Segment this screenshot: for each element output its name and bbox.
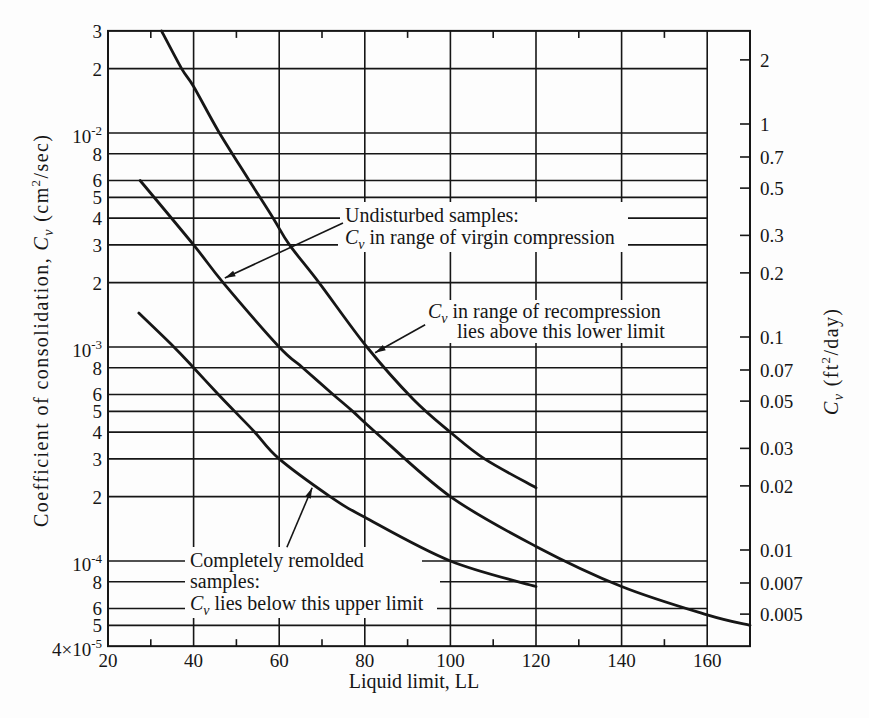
y-tick-label: 8: [93, 144, 103, 165]
tick-base: 5: [93, 187, 103, 208]
tick-exponent: -2: [91, 123, 102, 138]
y-tick-label: 3: [93, 449, 103, 470]
text-run: lies below this upper limit: [210, 592, 424, 615]
y-tick-label: 8: [93, 358, 103, 379]
text-run: (ft: [820, 364, 843, 392]
tick-base: 10: [72, 340, 91, 361]
curve-remolded-upper-limit: [139, 313, 536, 586]
y-tick-label: 2: [93, 487, 103, 508]
text-run: samples:: [190, 570, 260, 593]
right-tick-label: 0.7: [760, 147, 784, 168]
text-run: Completely remolded: [190, 549, 364, 572]
chart-canvas: 210.70.50.30.20.10.070.050.030.020.010.0…: [0, 0, 869, 718]
tick-base: 3: [93, 21, 103, 42]
x-tick-label: 120: [522, 650, 551, 671]
annotation-recompression: Cv in range of recompressionlies above t…: [428, 300, 665, 342]
tick-base: 3: [93, 449, 103, 470]
arrowhead-icon: [225, 271, 236, 278]
y-tick-label: 2: [93, 273, 103, 294]
y-axis-title-left: Coefficient of consolidation, Cv (cm2/se…: [28, 135, 56, 527]
annotation-line: Cv in range of virgin compression: [345, 226, 615, 252]
annotation-remolded-samples: Completely remoldedsamples:Cv lies below…: [190, 549, 424, 618]
annotation-line: lies above this lower limit: [457, 320, 665, 342]
tick-base: 8: [93, 572, 103, 593]
right-tick-label: 0.005: [760, 604, 803, 625]
x-tick-label: 100: [436, 650, 465, 671]
tick-exponent: -4: [91, 551, 102, 566]
text-run: Undisturbed samples:: [345, 204, 519, 227]
y-tick-label: 5: [93, 615, 103, 636]
tick-exponent: -5: [91, 636, 102, 651]
text-run: (cm: [30, 187, 53, 228]
tick-base: 4: [93, 422, 103, 443]
superscript: 2: [818, 357, 833, 364]
tick-base: 2: [93, 273, 103, 294]
right-tick-label: 0.02: [760, 476, 793, 497]
tick-base: 4: [93, 208, 103, 229]
annotation-arrow-line: [225, 223, 343, 278]
y-tick-label: 4: [93, 422, 103, 443]
x-axis-title: Liquid limit, LL: [349, 670, 480, 693]
tick-exponent: -3: [91, 337, 102, 352]
right-tick-label: 0.007: [760, 573, 803, 594]
text-run: /day): [820, 309, 843, 356]
text-run: C: [820, 401, 842, 415]
superscript: 2: [28, 180, 43, 187]
text-run: in range of virgin compression: [365, 226, 615, 249]
y-tick-label: 5: [93, 187, 103, 208]
consolidation-coefficient-chart: 210.70.50.30.20.10.070.050.030.020.010.0…: [0, 0, 869, 718]
annotation-line: Cv lies below this upper limit: [190, 592, 424, 618]
text-run: C: [30, 237, 52, 251]
tick-base: 2: [93, 59, 103, 80]
right-tick-label: 0.07: [760, 360, 793, 381]
curve-recompression-lower-limit: [162, 31, 537, 488]
tick-base: 2: [93, 487, 103, 508]
annotation-arrows: [225, 223, 425, 547]
subscript: v: [41, 229, 56, 236]
right-tick-label: 0.2: [760, 263, 784, 284]
text-run: lies above this lower limit: [457, 320, 665, 342]
y-tick-label: 4: [93, 208, 103, 229]
x-tick-label: 140: [607, 650, 636, 671]
y-tick-label: 4×10-5: [52, 636, 102, 660]
text-run: C: [190, 592, 204, 614]
x-tick-label: 60: [270, 650, 289, 671]
tick-base: 4×10: [52, 639, 91, 660]
right-tick-label: 2: [760, 50, 770, 71]
text-run: C: [345, 226, 359, 248]
text-run: C: [428, 300, 442, 322]
arrowhead-icon: [375, 345, 386, 353]
x-tick-label: 160: [693, 650, 722, 671]
annotation-undisturbed-samples: Undisturbed samples:Cv in range of virgi…: [345, 204, 615, 252]
tick-base: 5: [93, 401, 103, 422]
y-tick-label: 3: [93, 235, 103, 256]
tick-base: 8: [93, 144, 103, 165]
y-axis-title-right: Cv (ft2/day): [818, 309, 846, 415]
tick-base: 10: [72, 126, 91, 147]
y-tick-label: 3: [93, 21, 103, 42]
x-tick-label: 40: [184, 650, 203, 671]
text-run: Coefficient of consolidation,: [30, 252, 52, 527]
text-run: /sec): [30, 135, 53, 178]
y-tick-label: 8: [93, 572, 103, 593]
subscript: v: [831, 393, 846, 400]
tick-base: 3: [93, 235, 103, 256]
right-tick-label: 1: [760, 114, 770, 135]
tick-base: 5: [93, 615, 103, 636]
y-tick-label: 2: [93, 59, 103, 80]
tick-base: 10: [72, 554, 91, 575]
annotation-line: Completely remolded: [190, 549, 364, 572]
right-tick-label: 0.01: [760, 540, 793, 561]
right-tick-label: 0.03: [760, 438, 793, 459]
x-tick-label: 80: [355, 650, 374, 671]
text-labels: 210.70.50.30.20.10.070.050.030.020.010.0…: [28, 21, 846, 693]
annotation-line: Undisturbed samples:: [345, 204, 519, 227]
y-tick-label: 5: [93, 401, 103, 422]
tick-base: 8: [93, 358, 103, 379]
right-tick-label: 0.1: [760, 327, 784, 348]
x-tick-label: 20: [99, 650, 118, 671]
right-tick-label: 0.5: [760, 178, 784, 199]
annotation-line: samples:: [190, 570, 260, 593]
right-tick-label: 0.05: [760, 391, 793, 412]
right-tick-label: 0.3: [760, 225, 784, 246]
